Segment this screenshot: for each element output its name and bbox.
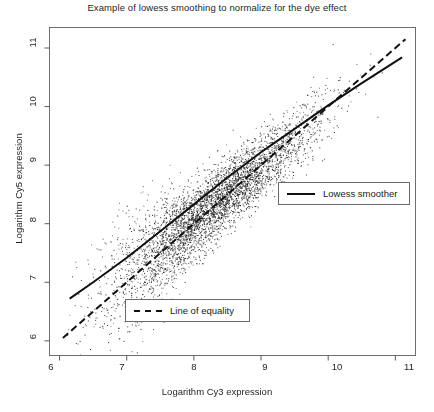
x-tick-label-4: 10 <box>327 361 347 372</box>
legend-item-lowess-smoother: Lowess smoother <box>278 182 410 205</box>
x-tick-label-5: 11 <box>399 361 419 372</box>
chart-figure: Example of lowess smoothing to normalize… <box>0 0 434 412</box>
scatter-plot-canvas <box>0 0 434 412</box>
x-tick-label-3: 9 <box>255 361 275 372</box>
y-tick-label-0: 6 <box>27 327 38 347</box>
x-tick-label-2: 8 <box>184 361 204 372</box>
solid-line-icon <box>286 189 316 199</box>
y-tick-label-4: 10 <box>27 92 38 112</box>
dashed-line-icon <box>133 306 163 316</box>
y-tick-label-1: 7 <box>27 268 38 288</box>
y-tick-label-5: 11 <box>27 33 38 53</box>
x-tick-label-1: 7 <box>112 361 132 372</box>
x-axis-label: Logarithm Cy3 expression <box>0 386 434 397</box>
legend-label-line-of-equality: Line of equality <box>170 305 234 316</box>
y-tick-label-3: 9 <box>27 150 38 170</box>
legend-label-lowess-smoother: Lowess smoother <box>323 188 397 199</box>
legend-item-line-of-equality: Line of equality <box>125 299 250 322</box>
y-tick-label-2: 8 <box>27 210 38 230</box>
y-axis-label: Logarithm Cy5 expression <box>13 109 24 269</box>
x-tick-label-0: 6 <box>41 361 61 372</box>
